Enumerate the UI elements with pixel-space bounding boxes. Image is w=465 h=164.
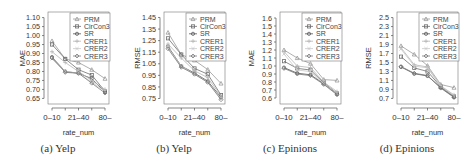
chart-caption: (c) Epinions — [232, 142, 348, 154]
svg-text:1.05: 1.05 — [142, 59, 156, 68]
svg-text:0.7: 0.7 — [262, 86, 272, 95]
chart-panel-c: 0.60.70.80.91.01.11.21.31.41.51.6MAE0–10… — [232, 0, 348, 164]
svg-text:1.5: 1.5 — [262, 22, 272, 31]
svg-text:0–10: 0–10 — [159, 113, 177, 122]
svg-text:2.1: 2.1 — [379, 31, 389, 40]
line-chart: 0.750.850.951.051.151.251.351.45RMSE0–10… — [116, 0, 232, 140]
series-crer3 — [50, 56, 107, 95]
svg-text:80–: 80– — [330, 113, 344, 122]
svg-text:0.9: 0.9 — [262, 70, 272, 79]
svg-text:1.05: 1.05 — [26, 22, 40, 31]
svg-text:CRER2: CRER2 — [433, 45, 457, 52]
svg-text:CirCon3: CirCon3 — [316, 23, 342, 30]
svg-text:1.4: 1.4 — [262, 30, 272, 39]
svg-text:80–: 80– — [98, 113, 112, 122]
chart-caption: (b) Yelp — [116, 142, 232, 154]
svg-text:0.95: 0.95 — [26, 40, 40, 49]
svg-text:MAE: MAE — [247, 50, 256, 66]
legend: PRMCirCon3SRCRER1CRER2CRER3 — [70, 13, 110, 61]
svg-text:CRER3: CRER3 — [200, 53, 224, 60]
svg-text:SR: SR — [433, 30, 443, 37]
chart-panel-a: 0.650.700.750.800.850.900.951.001.051.10… — [0, 0, 116, 164]
svg-text:0.6: 0.6 — [262, 94, 272, 103]
svg-text:CRER3: CRER3 — [433, 53, 457, 60]
svg-text:0.7: 0.7 — [379, 94, 389, 103]
svg-text:21–40: 21–40 — [417, 113, 439, 122]
line-chart: 0.70.91.11.31.51.71.92.12.32.5RMSE0–1021… — [349, 0, 465, 140]
svg-text:1.6: 1.6 — [262, 14, 272, 23]
svg-text:0–10: 0–10 — [392, 113, 410, 122]
svg-text:CRER2: CRER2 — [84, 45, 108, 52]
svg-text:rate_num: rate_num — [412, 128, 444, 137]
svg-text:0–10: 0–10 — [43, 113, 61, 122]
x-axis: 0–1021–4080– — [275, 108, 344, 122]
svg-text:CRER2: CRER2 — [316, 45, 340, 52]
svg-text:1.3: 1.3 — [262, 38, 272, 47]
svg-text:2.3: 2.3 — [379, 22, 389, 31]
svg-text:0–10: 0–10 — [275, 113, 293, 122]
svg-text:CRER3: CRER3 — [316, 53, 340, 60]
x-axis: 0–1021–4080– — [159, 108, 228, 122]
svg-text:0.8: 0.8 — [262, 78, 272, 87]
svg-text:0.85: 0.85 — [26, 58, 40, 67]
svg-text:CRER1: CRER1 — [316, 38, 340, 45]
svg-text:1.0: 1.0 — [262, 62, 272, 71]
legend: PRMCirCon3SRCRER1CRER2CRER3 — [186, 13, 226, 61]
svg-text:PRM: PRM — [316, 16, 332, 23]
svg-text:RMSE: RMSE — [133, 47, 142, 69]
svg-text:CirCon3: CirCon3 — [433, 23, 459, 30]
svg-text:SR: SR — [84, 30, 94, 37]
svg-text:1.1: 1.1 — [379, 76, 389, 85]
chart-caption: (d) Epinions — [349, 142, 465, 154]
svg-text:0.70: 0.70 — [26, 85, 40, 94]
svg-text:1.5: 1.5 — [379, 58, 389, 67]
svg-text:PRM: PRM — [84, 16, 100, 23]
svg-text:1.15: 1.15 — [142, 48, 156, 57]
svg-text:CRER3: CRER3 — [84, 53, 108, 60]
y-axis: 0.70.91.11.31.51.71.92.12.32.5 — [379, 13, 393, 103]
svg-text:CirCon3: CirCon3 — [84, 23, 110, 30]
svg-text:21–40: 21–40 — [300, 113, 322, 122]
svg-text:CRER1: CRER1 — [200, 38, 224, 45]
y-axis: 0.60.70.80.91.01.11.21.31.41.51.6 — [262, 14, 276, 103]
series-crer3 — [282, 66, 339, 96]
svg-text:SR: SR — [200, 30, 210, 37]
chart-panel-b: 0.750.850.951.051.151.251.351.45RMSE0–10… — [116, 0, 232, 164]
svg-text:rate_num: rate_num — [179, 128, 211, 137]
svg-text:CRER1: CRER1 — [84, 38, 108, 45]
svg-text:80–: 80– — [214, 113, 228, 122]
svg-text:0.75: 0.75 — [26, 76, 40, 85]
legend: PRMCirCon3SRCRER1CRER2CRER3 — [302, 13, 342, 61]
svg-text:0.9: 0.9 — [379, 85, 389, 94]
y-axis: 0.750.850.951.051.151.251.351.45 — [142, 13, 160, 103]
svg-text:1.25: 1.25 — [142, 36, 156, 45]
svg-text:SR: SR — [316, 30, 326, 37]
svg-text:PRM: PRM — [200, 16, 216, 23]
svg-text:0.85: 0.85 — [142, 83, 156, 92]
svg-text:rate_num: rate_num — [295, 128, 327, 137]
svg-text:RMSE: RMSE — [364, 47, 373, 69]
svg-text:1.35: 1.35 — [142, 25, 156, 34]
svg-text:1.2: 1.2 — [262, 46, 272, 55]
x-axis: 0–1021–4080– — [43, 108, 112, 122]
svg-text:CirCon3: CirCon3 — [200, 23, 226, 30]
svg-text:1.9: 1.9 — [379, 40, 389, 49]
svg-text:2.5: 2.5 — [379, 13, 389, 22]
svg-text:MAE: MAE — [18, 50, 27, 66]
chart-panel-d: 0.70.91.11.31.51.71.92.12.32.5RMSE0–1021… — [349, 0, 465, 164]
line-chart: 0.60.70.80.91.01.11.21.31.41.51.6MAE0–10… — [232, 0, 348, 140]
svg-text:21–40: 21–40 — [184, 113, 206, 122]
svg-text:80–: 80– — [447, 113, 461, 122]
svg-text:PRM: PRM — [433, 16, 449, 23]
chart-caption: (a) Yelp — [0, 142, 116, 154]
svg-text:21–40: 21–40 — [68, 113, 90, 122]
svg-text:0.75: 0.75 — [142, 94, 156, 103]
line-chart: 0.650.700.750.800.850.900.951.001.051.10… — [0, 0, 116, 140]
svg-text:0.80: 0.80 — [26, 67, 40, 76]
legend: PRMCirCon3SRCRER1CRER2CRER3 — [419, 13, 459, 61]
svg-text:rate_num: rate_num — [63, 128, 95, 137]
svg-text:1.45: 1.45 — [142, 13, 156, 22]
svg-text:1.1: 1.1 — [262, 54, 272, 63]
svg-text:1.00: 1.00 — [26, 31, 40, 40]
svg-text:CRER2: CRER2 — [200, 45, 224, 52]
